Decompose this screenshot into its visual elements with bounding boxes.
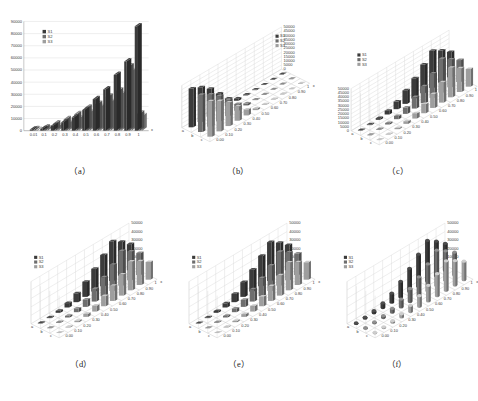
svg-text:0.50: 0.50: [430, 114, 438, 119]
svg-text:0.00: 0.00: [65, 333, 73, 338]
svg-text:0.60: 0.60: [439, 108, 447, 113]
svg-text:0.01: 0.01: [30, 132, 38, 137]
svg-text:0.40: 0.40: [421, 119, 429, 124]
svg-text:20000: 20000: [11, 104, 23, 109]
svg-text:0.9: 0.9: [125, 132, 130, 137]
svg-text:1: 1: [307, 84, 309, 89]
svg-text:0.90: 0.90: [466, 93, 474, 98]
svg-text:a: a: [31, 324, 34, 329]
svg-text:0.20: 0.20: [403, 130, 411, 135]
svg-text:0.2: 0.2: [52, 132, 57, 137]
svg-text:0.70: 0.70: [448, 103, 456, 108]
svg-text:0.60: 0.60: [119, 301, 127, 306]
panel-c-caption: （c）: [318, 164, 478, 176]
svg-text:0.90: 0.90: [462, 286, 470, 291]
figure-3d-bar-chart-grid: 0100002000030000400005000060000700008000…: [0, 0, 478, 401]
svg-text:0.20: 0.20: [83, 323, 91, 328]
svg-text:S3: S3: [48, 39, 54, 44]
panel-a: 0100002000030000400005000060000700008000…: [2, 12, 158, 162]
panel-e-svg: 10000200003000040000500000.000.100.200.3…: [160, 205, 318, 355]
svg-text:90000: 90000: [11, 19, 23, 24]
svg-text:0.5: 0.5: [83, 132, 88, 137]
svg-text:50000: 50000: [447, 220, 459, 225]
svg-text:S3: S3: [362, 62, 368, 67]
panel-a-svg: 0100002000030000400005000060000700008000…: [2, 12, 158, 162]
svg-text:0.30: 0.30: [250, 317, 258, 322]
panel-b: 0500010000150002000025000300003500040000…: [158, 12, 318, 162]
svg-text:0.30: 0.30: [92, 317, 100, 322]
panel-f-plot: 10000200003000040000500000.000.100.200.3…: [318, 205, 476, 355]
panel-a-caption: （a）: [2, 164, 158, 176]
svg-text:80000: 80000: [11, 31, 23, 36]
svg-text:40000: 40000: [447, 229, 459, 234]
panel-b-plot: 0500010000150002000025000300003500040000…: [158, 12, 318, 162]
svg-text:70000: 70000: [11, 43, 23, 48]
svg-text:0: 0: [20, 128, 23, 133]
svg-text:20000: 20000: [447, 246, 459, 251]
svg-text:0.50: 0.50: [262, 111, 270, 116]
svg-text:b: b: [191, 133, 193, 138]
panel-d-caption: （d）: [2, 357, 160, 369]
svg-text:0.50: 0.50: [426, 307, 434, 312]
panel-f: 10000200003000040000500000.000.100.200.3…: [318, 205, 476, 355]
svg-text:0.00: 0.00: [386, 140, 394, 145]
svg-text:1: 1: [313, 280, 315, 285]
svg-text:S3: S3: [197, 264, 203, 269]
svg-text:c: c: [370, 140, 372, 145]
svg-text:0.00: 0.00: [381, 333, 389, 338]
svg-text:40000: 40000: [131, 229, 143, 234]
svg-text:60000: 60000: [11, 55, 23, 60]
svg-text:0.60: 0.60: [271, 105, 279, 110]
svg-text:c: c: [208, 333, 210, 338]
svg-text:1: 1: [475, 87, 477, 92]
svg-text:a: a: [347, 324, 350, 329]
panel-d-plot: 10000200003000040000500000.000.100.200.3…: [2, 205, 160, 355]
svg-text:30000: 30000: [289, 237, 301, 242]
panel-e: 10000200003000040000500000.000.100.200.3…: [160, 205, 318, 355]
svg-text:b: b: [356, 329, 358, 334]
svg-text:0.10: 0.10: [390, 328, 398, 333]
svg-text:0.40: 0.40: [259, 312, 267, 317]
svg-text:0.20: 0.20: [399, 323, 407, 328]
svg-text:0.70: 0.70: [286, 296, 294, 301]
svg-text:50000: 50000: [11, 67, 23, 72]
svg-text:0.70: 0.70: [444, 296, 452, 301]
svg-text:1: 1: [155, 280, 157, 285]
svg-text:0.10: 0.10: [225, 132, 233, 137]
svg-text:0.3: 0.3: [62, 132, 67, 137]
svg-text:0.90: 0.90: [304, 286, 312, 291]
svg-text:0.10: 0.10: [394, 135, 402, 140]
svg-text:0.10: 0.10: [74, 328, 82, 333]
svg-text:b: b: [40, 329, 42, 334]
svg-text:0.80: 0.80: [295, 291, 303, 296]
svg-text:0.80: 0.80: [137, 291, 145, 296]
svg-text:b: b: [198, 329, 200, 334]
panel-c-svg: 0500010000150002000025000300003500040000…: [318, 12, 478, 162]
svg-text:0.40: 0.40: [253, 116, 261, 121]
panel-c-plot: 0500010000150002000025000300003500040000…: [318, 12, 478, 162]
svg-text:0.10: 0.10: [232, 328, 240, 333]
svg-text:10000: 10000: [11, 116, 23, 121]
svg-text:c: c: [50, 333, 52, 338]
svg-text:0.70: 0.70: [128, 296, 136, 301]
panel-b-svg: 0500010000150002000025000300003500040000…: [158, 12, 318, 162]
svg-text:0.60: 0.60: [435, 301, 443, 306]
svg-text:50000: 50000: [289, 220, 301, 225]
svg-text:0.50: 0.50: [110, 307, 118, 312]
svg-text:0.60: 0.60: [277, 301, 285, 306]
svg-text:0.30: 0.30: [412, 124, 420, 129]
svg-text:0.30: 0.30: [243, 121, 251, 126]
panel-c: 0500010000150002000025000300003500040000…: [318, 12, 478, 162]
svg-text:0.70: 0.70: [280, 100, 288, 105]
svg-text:b: b: [361, 136, 363, 141]
svg-text:c: c: [201, 137, 203, 142]
svg-text:0.20: 0.20: [241, 323, 249, 328]
svg-text:x: x: [313, 83, 315, 88]
svg-text:S3: S3: [280, 43, 286, 48]
panel-b-caption: （b）: [158, 164, 318, 176]
svg-text:0.40: 0.40: [101, 312, 109, 317]
svg-text:0.30: 0.30: [408, 317, 416, 322]
svg-text:0.90: 0.90: [298, 89, 306, 94]
svg-text:1: 1: [137, 132, 139, 137]
svg-text:50000: 50000: [284, 24, 296, 29]
